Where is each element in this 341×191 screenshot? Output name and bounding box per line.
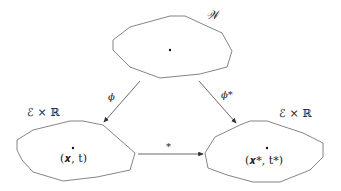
diagram-shapes	[0, 0, 341, 191]
set-left-point	[72, 147, 74, 149]
label-phi-star: ϕ*	[221, 90, 233, 100]
set-w-point	[169, 49, 171, 51]
set-right-shape	[205, 121, 323, 182]
label-right-point: (𝒙*, t*)	[245, 155, 283, 166]
label-right-set: ℰ × ℝ	[279, 108, 311, 119]
set-left-shape	[17, 121, 135, 181]
diagram-canvas: 𝒲 ℰ × ℝ ℰ × ℝ (𝒙, t) (𝒙*, t*) ϕ ϕ* *	[0, 0, 341, 191]
label-left-point: (𝒙, t)	[60, 153, 87, 164]
label-phi: ϕ	[108, 92, 115, 102]
label-w: 𝒲	[206, 9, 219, 21]
arrow-phi-star	[199, 81, 236, 123]
set-right-point	[266, 147, 268, 149]
set-w-shape	[113, 16, 232, 78]
label-left-set: ℰ × ℝ	[27, 107, 59, 118]
label-star: *	[166, 142, 171, 152]
